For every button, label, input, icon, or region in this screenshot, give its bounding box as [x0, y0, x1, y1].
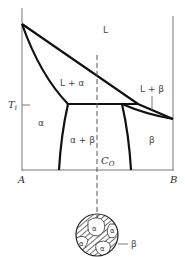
grain-label-1: α [92, 225, 97, 233]
label-temperature: Ti [8, 99, 17, 112]
phase-diagram: L L + α L + β α α + β β Ti CO A B α α α … [0, 0, 185, 257]
matrix-label-beta: β [131, 239, 137, 249]
label-beta: β [149, 135, 155, 145]
beta-solvus [122, 104, 131, 170]
label-alpha: α [38, 118, 44, 128]
alpha-solidus [22, 24, 68, 104]
beta-solidus [122, 104, 173, 119]
grain-label-3: α [79, 240, 84, 248]
grain-label-4: α [100, 245, 105, 253]
grain-label-2: α [110, 227, 115, 235]
label-alpha-beta: α + β [70, 135, 95, 145]
label-liquid: L [103, 25, 108, 35]
label-component-a: A [17, 174, 25, 185]
label-component-b: B [169, 174, 177, 185]
label-l-beta: L + β [140, 84, 164, 94]
label-composition: CO [101, 155, 115, 168]
label-l-alpha: L + α [60, 78, 84, 88]
alpha-solvus [59, 104, 68, 170]
